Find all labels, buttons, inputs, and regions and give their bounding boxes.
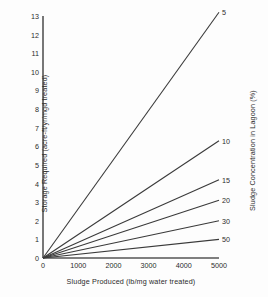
y-tick-label: 10 bbox=[21, 67, 39, 76]
series-line bbox=[43, 141, 219, 258]
series-line bbox=[43, 239, 219, 258]
series-line bbox=[43, 180, 219, 258]
series-end-label: 50 bbox=[222, 235, 230, 244]
x-tick-label: 0 bbox=[41, 261, 45, 270]
y-tick-label: 3 bbox=[21, 198, 39, 207]
y-tick-label: 4 bbox=[21, 179, 39, 188]
series-line bbox=[43, 221, 219, 258]
x-tick-label: 1000 bbox=[70, 261, 86, 270]
series-line bbox=[43, 12, 219, 258]
y-tick-label: 0 bbox=[21, 254, 39, 263]
series-lines bbox=[43, 12, 219, 258]
y-tick-label: 12 bbox=[21, 30, 39, 39]
series-line bbox=[43, 200, 219, 258]
series-end-label: 10 bbox=[222, 136, 230, 145]
series-end-label: 15 bbox=[222, 175, 230, 184]
series-end-label: 30 bbox=[222, 216, 230, 225]
series-end-label: 20 bbox=[222, 196, 230, 205]
y-tick-label: 7 bbox=[21, 123, 39, 132]
y-axis-title: Storage Required (acre-ft/yr/mgd treated… bbox=[40, 39, 49, 249]
x-tick-label: 2000 bbox=[105, 261, 121, 270]
y-tick-label: 13 bbox=[21, 12, 39, 21]
x-tick-label: 5000 bbox=[211, 261, 227, 270]
y-tick-label: 2 bbox=[21, 216, 39, 225]
x-tick-label: 3000 bbox=[141, 261, 157, 270]
chart-figure: 012345678910111213 010002000300040005000… bbox=[0, 0, 268, 297]
series-end-label: 5 bbox=[222, 8, 226, 17]
y-tick-label: 1 bbox=[21, 235, 39, 244]
x-tick-label: 4000 bbox=[176, 261, 192, 270]
y-tick-label: 6 bbox=[21, 142, 39, 151]
y-tick-label: 8 bbox=[21, 105, 39, 114]
right-axis-title: Sludge Concentration in Lagoon (%) bbox=[248, 46, 257, 256]
x-axis-title: Sludge Produced (lb/mg water treated) bbox=[43, 277, 219, 286]
y-tick-label: 11 bbox=[21, 49, 39, 58]
y-tick-label: 5 bbox=[21, 160, 39, 169]
y-tick-label: 9 bbox=[21, 86, 39, 95]
